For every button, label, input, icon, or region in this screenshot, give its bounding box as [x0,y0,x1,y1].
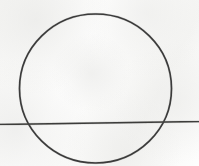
geometry-figure [0,0,199,166]
circle-shape [20,14,172,163]
figure-canvas: Circle with intersecting secant line Han… [0,0,199,166]
